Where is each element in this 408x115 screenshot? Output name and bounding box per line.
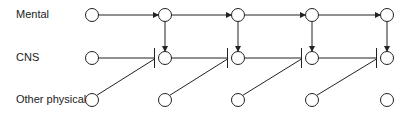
physical-to-cns-line: [243, 59, 302, 95]
node-mental-3: [232, 9, 245, 22]
physical-to-cns-line: [170, 59, 228, 95]
causal-diagram: [0, 0, 408, 115]
node-other-physical-2: [159, 94, 172, 107]
physical-to-cns-line: [97, 59, 155, 95]
node-cns-2: [159, 52, 172, 65]
node-mental-4: [306, 9, 319, 22]
node-other-physical-5: [381, 94, 394, 107]
node-cns-4: [306, 52, 319, 65]
node-other-physical-4: [306, 94, 319, 107]
node-other-physical-1: [86, 94, 99, 107]
node-other-physical-3: [232, 94, 245, 107]
node-mental-1: [86, 9, 99, 22]
node-cns-3: [232, 52, 245, 65]
node-mental-2: [159, 9, 172, 22]
node-cns-5: [381, 52, 394, 65]
node-cns-1: [86, 52, 99, 65]
node-mental-5: [381, 9, 394, 22]
physical-to-cns-line: [317, 59, 377, 95]
